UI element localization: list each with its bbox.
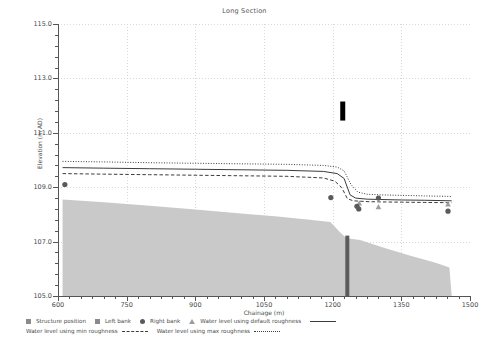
x-axis-tick-label: 750 <box>107 301 147 309</box>
dashed-line-icon <box>122 331 148 332</box>
legend-row-secondary: Water level using min roughnessWater lev… <box>26 326 466 336</box>
legend-label: Right bank <box>150 317 180 326</box>
x-axis-tick-label: 900 <box>175 301 215 309</box>
right-bank-marker <box>445 209 450 214</box>
chart-plot-area <box>58 24 470 296</box>
legend-item[interactable]: Right bank <box>140 317 189 326</box>
legend-label: Structure position <box>36 317 86 326</box>
right-bank-marker <box>376 195 381 200</box>
left-bank-marker <box>445 201 451 206</box>
triangle-marker-icon <box>189 319 195 324</box>
right-bank-marker <box>328 195 333 200</box>
legend-item[interactable]: Water level using min roughness <box>26 327 157 336</box>
legend-row-primary: Structure positionLeft bankRight bankWat… <box>26 316 466 326</box>
y-axis-title: Elevation (m AD) <box>36 99 43 189</box>
legend-label: Water level using min roughness <box>26 327 118 336</box>
long-section-chart-window: Long Section 105.0107.0109.0111.0113.011… <box>0 0 489 346</box>
square-marker-icon <box>95 319 100 324</box>
dotted-line-icon <box>254 331 280 332</box>
x-axis-tick-label: 600 <box>38 301 78 309</box>
solid-line-icon <box>310 321 336 322</box>
structure-position-marker <box>340 102 345 121</box>
water-level-line <box>63 168 452 201</box>
legend-label: Water level using max roughness <box>157 327 250 336</box>
x-axis-title: Chainage (m) <box>58 309 470 316</box>
x-axis-tick-label: 1050 <box>244 301 284 309</box>
legend-item[interactable]: Structure position <box>26 317 95 326</box>
legend-label: Left bank <box>105 317 131 326</box>
legend-item[interactable]: Water level using max roughness <box>157 327 289 336</box>
circle-marker-icon <box>140 319 145 324</box>
x-axis-line <box>58 296 471 297</box>
x-axis-tick-label: 1200 <box>313 301 353 309</box>
y-axis-tick-label: 115.0 <box>6 20 52 28</box>
right-bank-marker <box>356 206 361 211</box>
water-level-line <box>63 161 452 196</box>
water-level-line <box>63 174 452 203</box>
legend-item[interactable]: Water level using default roughness <box>189 317 310 326</box>
legend-item[interactable]: Left bank <box>95 317 140 326</box>
x-axis-tick-label: 1350 <box>381 301 421 309</box>
square-marker-icon <box>26 319 31 324</box>
bed-profile-area <box>63 199 452 296</box>
y-axis-tick-label: 111.0 <box>6 129 52 137</box>
structure-position-marker <box>345 236 349 296</box>
right-bank-marker <box>62 182 67 187</box>
y-axis-tick-label: 105.0 <box>6 292 52 300</box>
chart-legend: Structure positionLeft bankRight bankWat… <box>26 316 466 336</box>
x-axis-tick-label: 1500 <box>450 301 489 309</box>
y-axis-tick-label: 109.0 <box>6 183 52 191</box>
y-axis-tick-label: 113.0 <box>6 74 52 82</box>
y-axis-tick-label: 107.0 <box>6 238 52 246</box>
left-bank-marker <box>376 204 382 209</box>
chart-title: Long Section <box>0 7 489 15</box>
legend-label: Water level using default roughness <box>200 317 301 326</box>
